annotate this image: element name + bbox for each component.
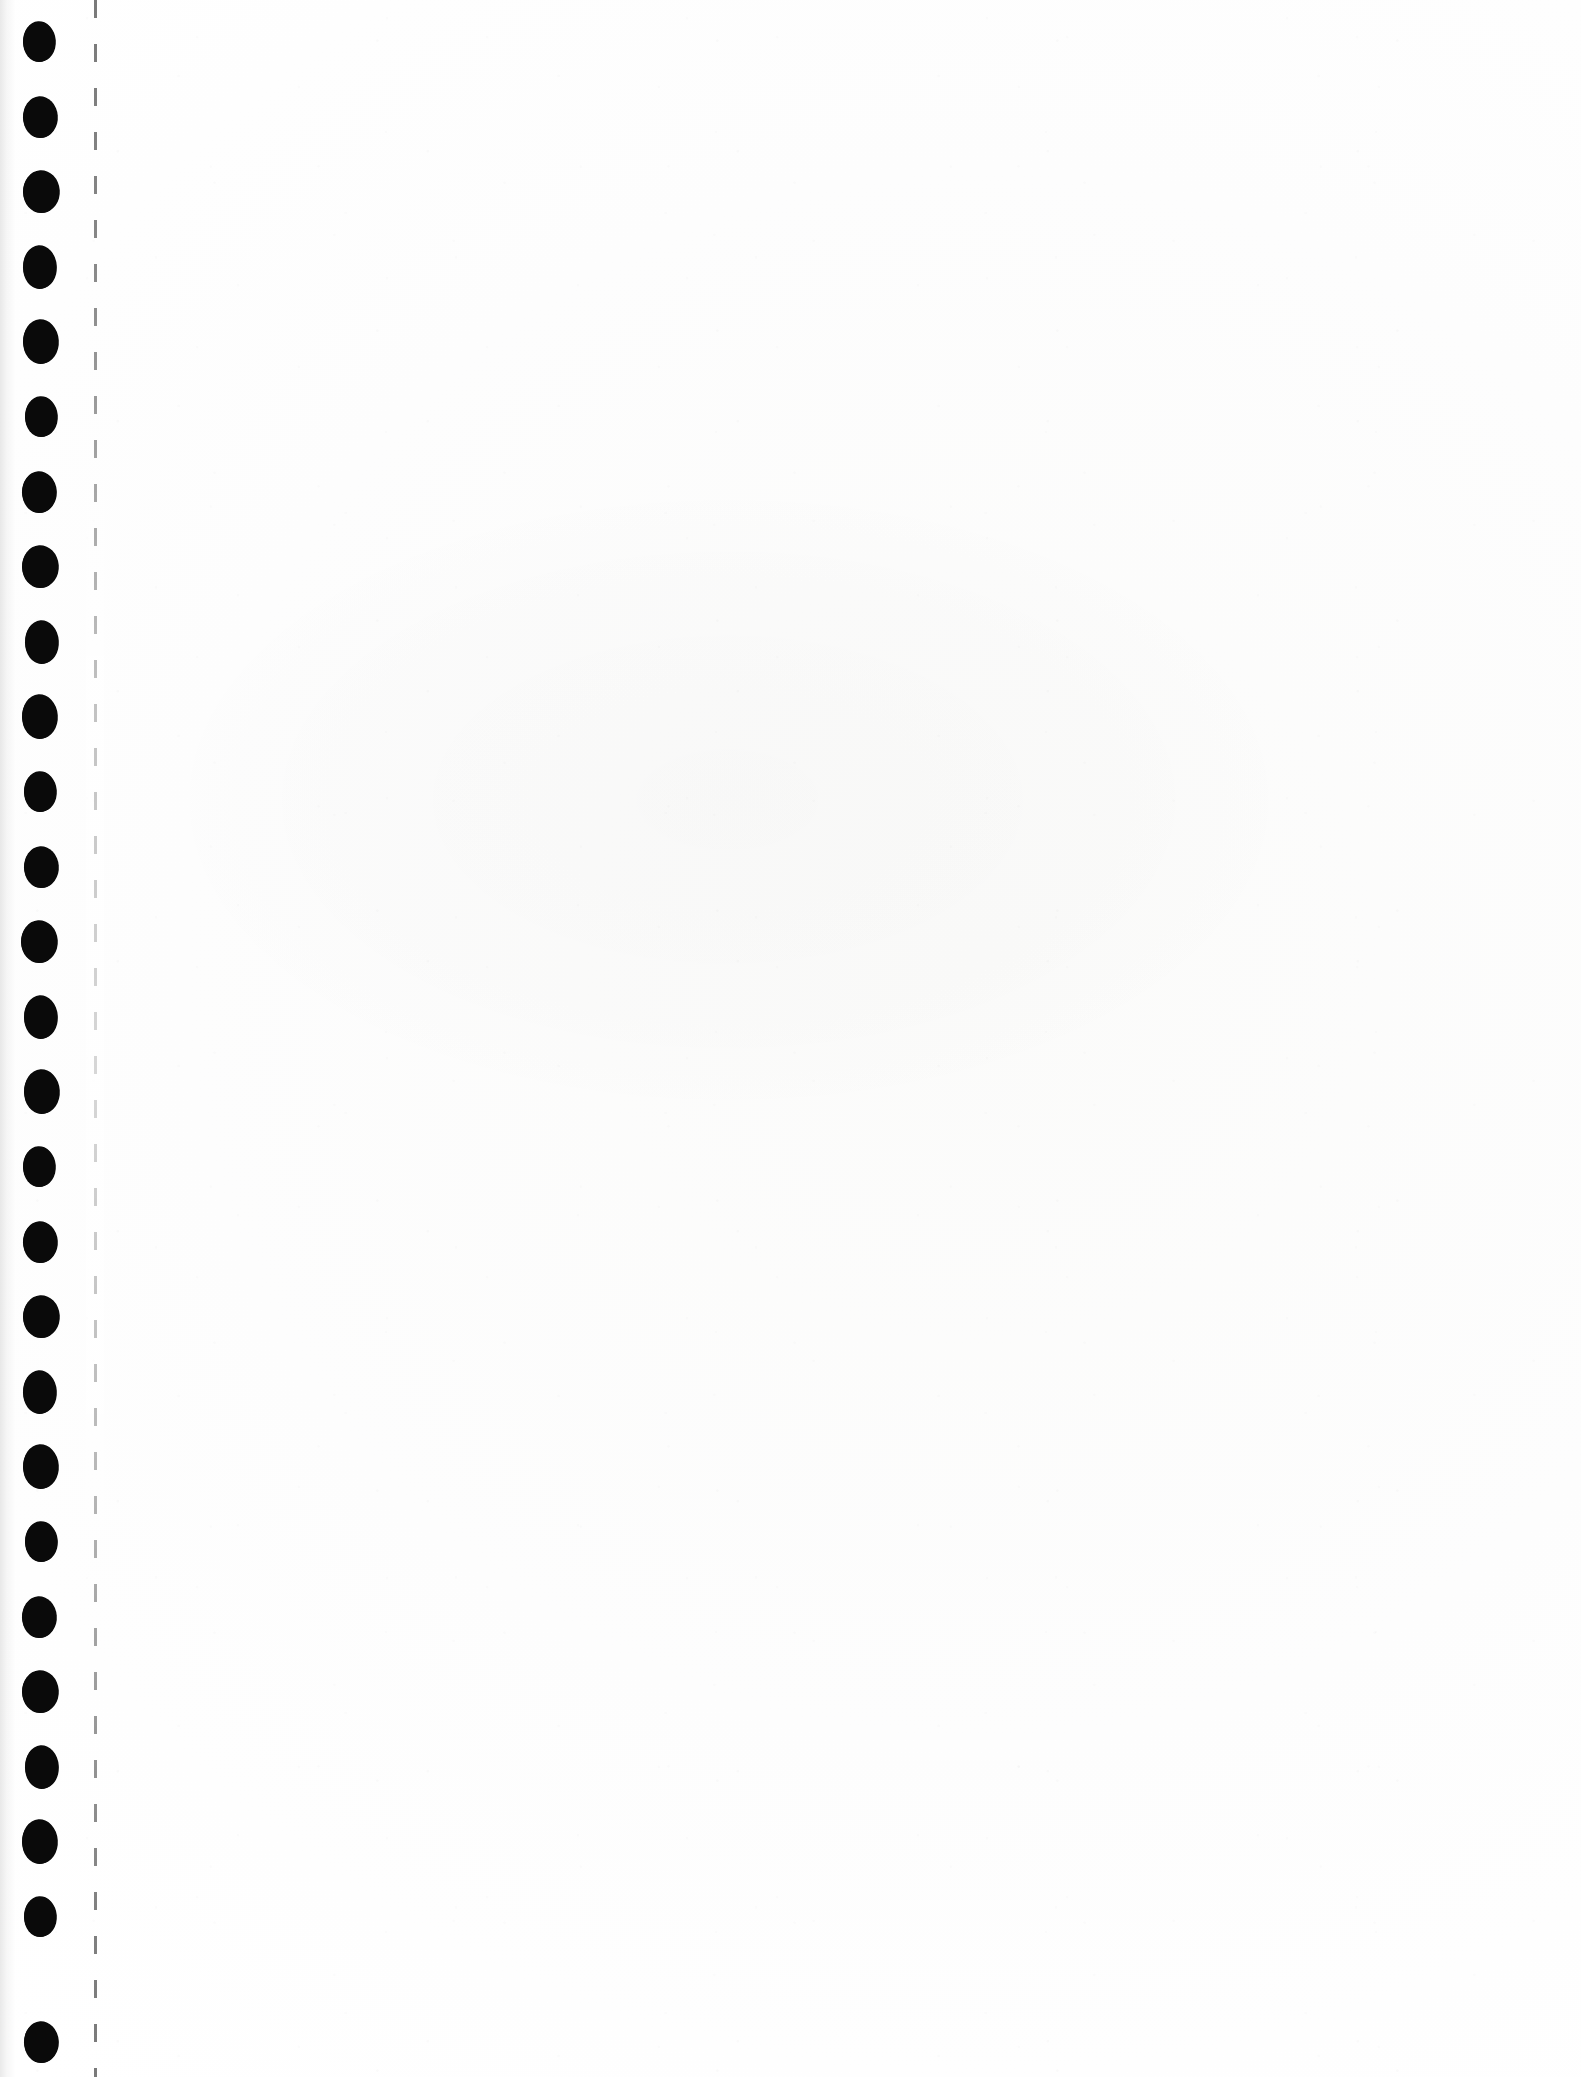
punch-hole (25, 1746, 58, 1789)
punch-hole (24, 996, 57, 1039)
punch-hole (23, 171, 59, 213)
punch-hole (23, 22, 55, 62)
scanned-page (0, 0, 1581, 2077)
writing-area (110, 0, 1581, 2077)
punch-hole (24, 772, 56, 812)
punch-hole (23, 1296, 59, 1338)
punch-hole (23, 1445, 58, 1489)
punch-hole (24, 1897, 56, 1937)
punch-hole (24, 847, 58, 888)
punch-hole (25, 621, 58, 664)
punch-hole (22, 1597, 56, 1638)
punch-hole (22, 1671, 58, 1713)
perforation-dashed-line (94, 0, 97, 2077)
punch-hole (25, 1522, 57, 1562)
punch-hole (23, 1371, 56, 1414)
punch-hole (23, 1222, 57, 1263)
punch-hole (25, 397, 57, 437)
punch-hole (24, 1070, 59, 1114)
punch-hole (23, 97, 57, 138)
punch-hole (22, 1820, 57, 1864)
punch-hole (23, 320, 58, 364)
punch-hole (22, 695, 57, 739)
punch-hole-column (0, 0, 90, 2077)
punch-hole (24, 2022, 58, 2063)
punch-hole (22, 472, 56, 513)
punch-hole (22, 546, 58, 588)
punch-hole (23, 1147, 55, 1187)
punch-hole (21, 921, 57, 963)
punch-hole (23, 246, 56, 289)
